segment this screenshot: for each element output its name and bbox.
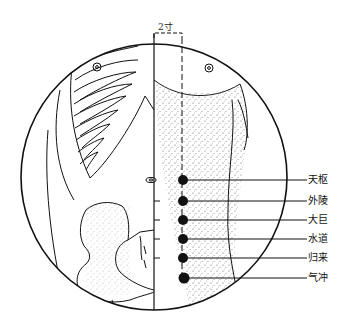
acupoint-diagram: 2寸 天枢 外陵 大巨 水道 归来 气冲 [0,0,344,332]
point-tianshu [178,175,188,185]
label-wailing: 外陵 [308,195,328,207]
measure-label: 2寸 [158,22,173,32]
midline-ticks [154,201,160,258]
label-guilai: 归来 [308,252,328,264]
point-wailing [178,196,188,206]
point-daju [178,215,188,225]
label-qichong: 气冲 [308,272,328,284]
point-shuidao [178,234,188,244]
label-shuidao: 水道 [308,233,328,245]
label-tianshu: 天枢 [308,174,328,186]
nipple-right [205,64,213,72]
torso-illustration [47,46,248,320]
pelvis [77,203,154,320]
point-guilai [178,253,188,263]
label-daju: 大巨 [308,214,328,226]
ribcage [56,46,154,200]
point-qichong [179,273,190,284]
